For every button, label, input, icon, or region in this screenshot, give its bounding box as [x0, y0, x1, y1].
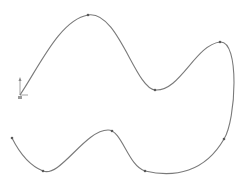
spline-point[interactable]: [87, 14, 90, 17]
spline-curve[interactable]: [12, 15, 234, 174]
spline-point[interactable]: [223, 138, 226, 141]
sketch-canvas[interactable]: [0, 0, 247, 189]
spline-point[interactable]: [11, 137, 14, 140]
spline-point[interactable]: [219, 41, 222, 44]
spline-point[interactable]: [154, 89, 157, 92]
spline-point[interactable]: [144, 170, 147, 173]
spline-point[interactable]: [111, 130, 114, 133]
origin-axis-icon: [18, 77, 28, 99]
spline-point[interactable]: [42, 170, 45, 173]
